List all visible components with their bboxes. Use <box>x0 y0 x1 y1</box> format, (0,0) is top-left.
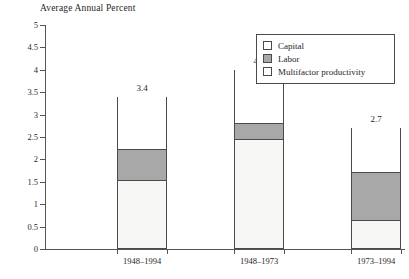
x-axis-tick <box>234 249 235 254</box>
y-axis-tick-label: 0.5 <box>12 223 38 232</box>
y-axis-tick <box>40 227 45 228</box>
chart-root: Average Annual Percent 54.543.532.521.51… <box>0 0 409 279</box>
y-axis-line <box>45 25 46 249</box>
x-axis-tick <box>167 249 168 254</box>
x-axis-tick <box>117 249 118 254</box>
y-axis-tick <box>40 204 45 205</box>
y-axis-tick-labels: 54.543.532.521.510.50 <box>0 25 38 249</box>
bar-segment-labor[interactable] <box>118 149 166 180</box>
y-axis-tick <box>40 115 45 116</box>
legend-item-label: Capital <box>278 41 304 51</box>
legend-item-label: Labor <box>278 54 300 64</box>
y-axis-tick-label: 4 <box>12 66 38 75</box>
bar-segment-multifactor-productivity[interactable] <box>352 221 400 248</box>
y-axis-tick-label: 2.5 <box>12 133 38 142</box>
y-axis-tick-label: 0 <box>12 245 38 254</box>
y-axis-tick <box>40 249 45 250</box>
legend-swatch-icon <box>263 54 272 63</box>
bar-segment-multifactor-productivity[interactable] <box>235 140 283 248</box>
x-axis-tick <box>401 249 402 254</box>
legend-swatch-icon <box>263 67 272 76</box>
y-axis-tick-label: 5 <box>12 21 38 30</box>
y-axis-tick <box>40 70 45 71</box>
y-axis-tick <box>40 137 45 138</box>
stacked-bar[interactable] <box>234 70 284 249</box>
y-axis-tick <box>40 159 45 160</box>
bar-segment-capital[interactable] <box>352 127 400 172</box>
x-axis-tick <box>351 249 352 254</box>
y-axis-tick-label: 1.5 <box>12 178 38 187</box>
legend-item-multifactor-productivity[interactable]: Multifactor productivity <box>263 65 388 78</box>
y-axis-tick-label: 4.5 <box>12 43 38 52</box>
y-axis-tick <box>40 182 45 183</box>
y-axis-tick <box>40 47 45 48</box>
legend-item-label: Multifactor productivity <box>278 67 365 77</box>
x-axis-label: 1948–1994 <box>87 257 197 266</box>
y-axis-tick <box>40 92 45 93</box>
bar-segment-labor[interactable] <box>352 172 400 221</box>
legend-swatch-icon <box>263 41 272 50</box>
bar-segment-labor[interactable] <box>235 123 283 141</box>
y-axis-tick-label: 2 <box>12 155 38 164</box>
y-axis-tick <box>40 25 45 26</box>
y-axis-tick-label: 1 <box>12 200 38 209</box>
x-axis-label: 1948–1973 <box>204 257 314 266</box>
stacked-bar[interactable] <box>351 128 401 249</box>
legend-item-labor[interactable]: Labor <box>263 52 388 65</box>
y-axis-tick-label: 3.5 <box>12 88 38 97</box>
stacked-bar[interactable] <box>117 97 167 249</box>
legend-item-capital[interactable]: Capital <box>263 39 388 52</box>
bar-total-label: 3.4 <box>117 84 167 93</box>
x-axis-label: 1973–1994 <box>321 257 409 266</box>
bar-segment-capital[interactable] <box>118 96 166 150</box>
bar-total-label: 2.7 <box>351 115 401 124</box>
x-axis-tick <box>284 249 285 254</box>
chart-legend: CapitalLaborMultifactor productivity <box>256 34 395 84</box>
chart-title: Average Annual Percent <box>40 3 135 13</box>
bar-segment-multifactor-productivity[interactable] <box>118 181 166 248</box>
y-axis-tick-label: 3 <box>12 111 38 120</box>
bar-group[interactable]: 3.4 <box>117 25 167 249</box>
